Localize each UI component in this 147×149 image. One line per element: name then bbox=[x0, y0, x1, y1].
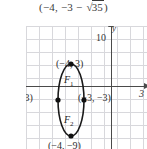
annotation-suffix: ) bbox=[104, 1, 108, 13]
label-top-vertex: (−4, 3) bbox=[56, 58, 83, 69]
coordinate-plane: y 3 10 (−4, 3) (−5, −3) (−3, −3) (−4, −9… bbox=[26, 26, 147, 149]
label-focus-1: F1 bbox=[64, 74, 74, 88]
radical-expression: √35 bbox=[85, 1, 104, 13]
point-bottom-vertex bbox=[68, 133, 73, 138]
focus-2-index: 2 bbox=[70, 120, 74, 128]
point-left-covertex bbox=[55, 97, 60, 102]
label-left-covertex: (−5, −3) bbox=[26, 92, 33, 103]
focus-coordinate-annotation: (−4, −3 − √35) bbox=[0, 1, 147, 13]
label-right-covertex: (−3, −3) bbox=[78, 92, 111, 103]
ellipse-figure: (−4, −3 − √35) y bbox=[0, 0, 147, 149]
ellipse-curve bbox=[26, 26, 147, 149]
radicand: 35 bbox=[92, 0, 104, 13]
annotation-prefix: (−4, −3 − bbox=[39, 1, 85, 13]
focus-1-index: 1 bbox=[70, 80, 74, 88]
label-focus-2: F2 bbox=[64, 114, 74, 128]
label-bottom-vertex: (−4, −9) bbox=[48, 140, 81, 149]
